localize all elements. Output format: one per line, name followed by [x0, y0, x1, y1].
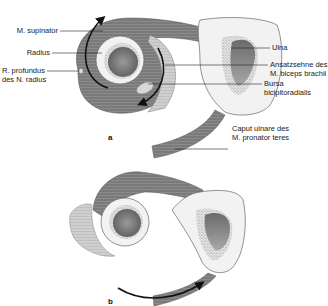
label-radius: Radius	[0, 48, 50, 57]
label-pronator-teres-line2: M. pronator teres	[232, 133, 289, 142]
label-r-profundus-line2: des N. radius	[2, 75, 46, 84]
label-ulna: Ulna	[272, 43, 287, 52]
label-r-profundus-line1: R. profundus	[2, 66, 46, 75]
label-pronator-teres: Caput ulnare des M. pronator teres	[232, 124, 289, 142]
label-bursa: Bursa bicipitoradialis	[264, 79, 311, 97]
label-biceps-tendon-line1: Ansatzsehne des	[270, 60, 328, 69]
label-bursa-line1: Bursa	[264, 79, 311, 88]
panel-letter-b: b	[108, 297, 113, 306]
label-bursa-line2: bicipitoradialis	[264, 88, 311, 97]
pronator-teres-muscle-b	[153, 273, 216, 306]
panel-b-illustration	[70, 172, 246, 306]
label-r-profundus: R. profundus des N. radius	[2, 66, 46, 84]
pronator-teres-muscle	[152, 110, 225, 158]
radius-marrow	[108, 47, 138, 77]
label-biceps-tendon-line2: M. biceps brachii	[270, 69, 328, 78]
radial-nerve-branch	[79, 69, 83, 74]
label-pronator-teres-line1: Caput ulnare des	[232, 124, 289, 133]
radius-marrow-b	[113, 209, 141, 237]
label-m-supinator: M. supinator	[0, 26, 58, 35]
panel-letter-a: a	[108, 133, 112, 142]
label-biceps-tendon: Ansatzsehne des M. biceps brachii	[270, 60, 328, 78]
